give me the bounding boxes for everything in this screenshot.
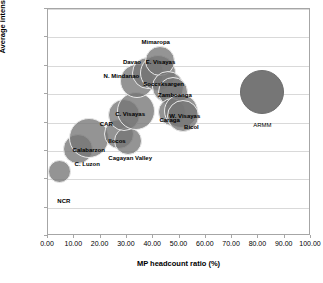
x-tick-label: 100.00 xyxy=(290,240,323,247)
point-label: Mimaropa xyxy=(142,39,170,46)
gridline xyxy=(48,179,309,180)
x-tick-mark xyxy=(257,235,258,238)
bubble-armm xyxy=(240,70,284,114)
x-tick-mark xyxy=(179,235,180,238)
x-tick-mark xyxy=(231,235,232,238)
point-label: C. Visayas xyxy=(115,111,145,118)
point-label: Bicol xyxy=(184,124,199,131)
point-label: NCR xyxy=(57,198,70,205)
gridline xyxy=(48,66,309,67)
point-label: Calabarzon xyxy=(73,147,105,154)
point-label: E. Visayas xyxy=(146,59,176,66)
point-label: Soccsksargen xyxy=(143,81,184,88)
x-tick-mark xyxy=(310,235,311,238)
point-label: W. Visayas xyxy=(169,113,200,120)
x-axis-title: MP headcount ratio (%) xyxy=(47,259,310,268)
point-label: Zamboanga xyxy=(158,92,192,99)
bubble-chart: Average intensity of MP (A) MP headcount… xyxy=(0,0,323,283)
point-label: C. Luzon xyxy=(75,161,100,168)
point-label: Cagayan Valley xyxy=(108,155,152,162)
x-tick-mark xyxy=(100,235,101,238)
point-label: N. Mindanao xyxy=(104,73,140,80)
x-tick-mark xyxy=(152,235,153,238)
y-axis-title: Average intensity of MP (A) xyxy=(0,0,7,60)
gridline xyxy=(48,9,309,10)
point-label: CAR xyxy=(100,121,113,128)
point-label: Davao xyxy=(123,59,141,66)
gridline xyxy=(48,208,309,209)
point-label: ARMM xyxy=(253,122,271,129)
point-label: Ilocos xyxy=(108,138,125,145)
x-tick-mark xyxy=(73,235,74,238)
plot-area: NCRC. LuzonCalabarzonIlocosCagayan Valle… xyxy=(47,8,310,235)
gridline xyxy=(48,37,309,38)
x-tick-mark xyxy=(205,235,206,238)
x-tick-mark xyxy=(126,235,127,238)
x-tick-mark xyxy=(47,235,48,238)
x-tick-mark xyxy=(284,235,285,238)
